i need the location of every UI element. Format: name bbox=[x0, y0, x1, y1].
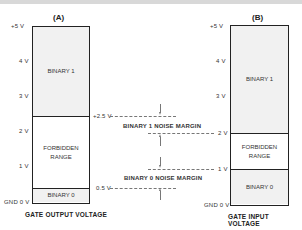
level-input-low: 1 V bbox=[218, 166, 228, 172]
region-forbidden: FORBIDDENRANGE bbox=[231, 133, 288, 169]
arrow-up-icon bbox=[159, 134, 161, 137]
panel-b-title: (B) bbox=[252, 13, 263, 22]
axis-label-0v: GND 0 V bbox=[204, 202, 229, 208]
axis-label-0v: GND 0 V bbox=[4, 199, 29, 205]
axis-label-4v: 4 V bbox=[216, 58, 226, 64]
region-binary-1: BINARY 1 bbox=[231, 26, 288, 133]
region-binary-0: BINARY 0 bbox=[231, 169, 288, 204]
axis-label-3v: 3 V bbox=[216, 93, 226, 99]
arrow-up-icon bbox=[159, 188, 161, 191]
region-binary-0: BINARY 0 bbox=[33, 188, 89, 202]
axis-label-1v: 1 V bbox=[19, 163, 29, 169]
region-forbidden: FORBIDDENRANGE bbox=[33, 116, 89, 188]
level-input-high: 2 V bbox=[218, 130, 228, 136]
region-binary-1: BINARY 1 bbox=[33, 27, 89, 116]
axis-label-5v: +5 V bbox=[11, 23, 24, 29]
binary1-noise-margin-label: BINARY 1 NOISE MARGIN bbox=[123, 123, 201, 129]
dashed-line-2-5v bbox=[110, 116, 176, 117]
region-label: BINARY 1 bbox=[246, 75, 273, 84]
caption-output: GATE OUTPUT VOLTAGE bbox=[25, 211, 107, 218]
region-label: BINARY 0 bbox=[47, 191, 74, 200]
axis-label-2v: 2 V bbox=[19, 128, 29, 134]
axis-label-3v: 3 V bbox=[19, 93, 29, 99]
panel-a-title: (A) bbox=[53, 13, 64, 22]
dashed-line-0-5v bbox=[110, 188, 176, 189]
arrow-down-icon bbox=[159, 112, 161, 115]
caption-input: GATE INPUT VOLTAGE bbox=[228, 213, 302, 227]
region-label: FORBIDDENRANGE bbox=[242, 143, 277, 161]
arrow-down-icon bbox=[159, 165, 161, 168]
binary0-noise-margin-label: BINARY 0 NOISE MARGIN bbox=[124, 175, 202, 181]
region-label: FORBIDDENRANGE bbox=[43, 144, 78, 162]
output-voltage-bar: BINARY 1 FORBIDDENRANGE BINARY 0 bbox=[32, 26, 90, 204]
axis-label-5v: +5 V bbox=[210, 23, 223, 29]
level-output-low: 0.5 V bbox=[96, 185, 111, 191]
region-label: BINARY 0 bbox=[246, 183, 273, 192]
top-border bbox=[0, 0, 302, 4]
axis-label-4v: 4 V bbox=[19, 58, 29, 64]
region-label: BINARY 1 bbox=[47, 67, 74, 76]
input-voltage-bar: BINARY 1 FORBIDDENRANGE BINARY 0 bbox=[230, 25, 289, 206]
level-output-high: +2.5 V bbox=[93, 113, 112, 119]
arrow-line bbox=[160, 137, 161, 146]
arrow-line bbox=[160, 191, 161, 200]
dashed-line-1v bbox=[148, 169, 214, 170]
